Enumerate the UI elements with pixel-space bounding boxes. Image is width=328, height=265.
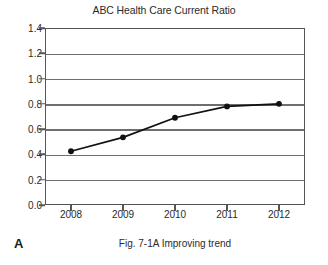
y-tick-label: 0.8 [2, 98, 42, 109]
figure-panel: ABC Health Care Current Ratio 0.00.20.40… [0, 0, 328, 265]
y-tick-label: 0.6 [2, 124, 42, 135]
y-tick-mark [39, 78, 45, 80]
x-tick-mark [70, 205, 72, 211]
y-tick-mark [39, 179, 45, 181]
x-tick-mark [174, 205, 176, 211]
gridline [46, 54, 304, 56]
gridline [46, 155, 304, 157]
plot-area [45, 28, 305, 205]
y-tick-label: 0.0 [2, 200, 42, 211]
chart-title: ABC Health Care Current Ratio [0, 4, 328, 16]
panel-label: A [14, 236, 23, 251]
y-tick-label: 1.0 [2, 73, 42, 84]
y-tick-label: 0.4 [2, 149, 42, 160]
gridline [46, 180, 304, 182]
y-tick-mark [39, 53, 45, 55]
x-tick-mark [226, 205, 228, 211]
gridline [46, 129, 304, 131]
y-tick-mark [39, 204, 45, 206]
x-tick-mark [278, 205, 280, 211]
y-tick-mark [39, 154, 45, 156]
y-tick-mark [39, 128, 45, 130]
y-tick-label: 1.4 [2, 23, 42, 34]
y-tick-label: 0.2 [2, 174, 42, 185]
y-tick-label: 1.2 [2, 48, 42, 59]
y-tick-mark [39, 27, 45, 29]
gridline [46, 79, 304, 81]
gridline [46, 104, 304, 106]
figure-caption: Fig. 7-1A Improving trend [50, 238, 300, 249]
y-tick-mark [39, 103, 45, 105]
x-tick-mark [122, 205, 124, 211]
